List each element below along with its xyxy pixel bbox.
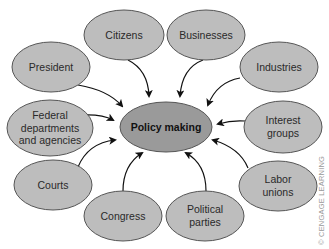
- policy-making-label: Policy making: [131, 121, 202, 133]
- node-president: President: [12, 42, 90, 92]
- citizens-label: Citizens: [105, 29, 142, 41]
- labor-unions-label: Labor: [265, 173, 292, 185]
- center-node-policy-making: Policy making: [120, 102, 212, 152]
- arrow-president-to-policy-making: [78, 85, 122, 106]
- federal-label: Federal: [32, 109, 68, 121]
- copyright-credit: © CENGAGE LEARNING: [317, 150, 327, 245]
- federal-label: departments: [21, 122, 79, 134]
- president-label: President: [29, 61, 73, 73]
- courts-label: Courts: [38, 179, 69, 191]
- arrow-interest-groups-to-policy-making: [218, 121, 245, 124]
- arrow-labor-unions-to-policy-making: [213, 140, 248, 168]
- node-industries: Industries: [240, 42, 318, 92]
- industries-label: Industries: [256, 61, 302, 73]
- arrow-industries-to-policy-making: [208, 78, 240, 105]
- node-labor-unions: Laborunions: [239, 161, 317, 211]
- arrow-citizens-to-policy-making: [128, 60, 149, 96]
- federal-label: and agencies: [19, 134, 81, 146]
- interest-groups-label: groups: [267, 127, 299, 139]
- node-political-parties: Politicalparties: [166, 191, 244, 241]
- arrow-businesses-to-policy-making: [180, 60, 203, 96]
- labor-unions-label: unions: [263, 186, 294, 198]
- policy-making-diagram: CitizensBusinessesPresidentIndustriesFed…: [0, 0, 329, 249]
- arrow-political-parties-to-policy-making: [186, 153, 206, 191]
- political-parties-label: Political: [187, 203, 223, 215]
- node-federal: Federaldepartmentsand agencies: [7, 100, 93, 156]
- arrow-congress-to-policy-making: [123, 153, 142, 191]
- businesses-label: Businesses: [179, 29, 233, 41]
- node-citizens: Citizens: [84, 10, 164, 60]
- node-courts: Courts: [14, 160, 92, 210]
- node-businesses: Businesses: [167, 10, 245, 60]
- interest-groups-label: Interest: [265, 114, 300, 126]
- congress-label: Congress: [101, 210, 146, 222]
- node-interest-groups: Interestgroups: [244, 101, 322, 153]
- credit-text: © CENGAGE LEARNING: [317, 156, 326, 245]
- political-parties-label: parties: [189, 216, 221, 228]
- node-congress: Congress: [84, 191, 162, 241]
